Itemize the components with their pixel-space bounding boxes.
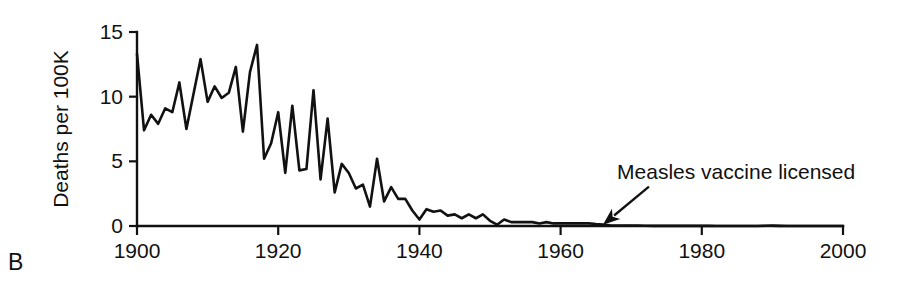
x-tick-labels: 190019201940196019802000 bbox=[114, 239, 867, 262]
x-tick-label: 1900 bbox=[114, 239, 161, 262]
x-axis: 190019201940196019802000 bbox=[114, 226, 867, 262]
y-tick-labels: 051015 bbox=[100, 20, 123, 237]
figure-panel-b: 051015 190019201940196019802000 Deaths p… bbox=[0, 0, 899, 294]
x-tick-label: 1920 bbox=[255, 239, 302, 262]
y-tick-label: 5 bbox=[111, 149, 123, 172]
annotation-arrow-shaft bbox=[614, 187, 649, 216]
annotation-measles-vaccine-licensed: Measles vaccine licensed bbox=[603, 160, 855, 224]
y-tick-label: 0 bbox=[111, 214, 123, 237]
panel-label: B bbox=[8, 249, 23, 275]
annotation-label: Measles vaccine licensed bbox=[617, 160, 855, 183]
data-series-line bbox=[137, 45, 843, 226]
y-tick-label: 15 bbox=[100, 20, 123, 43]
x-tick-label: 2000 bbox=[820, 239, 867, 262]
x-tick-label: 1960 bbox=[537, 239, 584, 262]
y-tick-label: 10 bbox=[100, 85, 123, 108]
y-axis-title: Deaths per 100K bbox=[49, 50, 72, 208]
y-axis: 051015 bbox=[100, 20, 137, 237]
x-tick-label: 1940 bbox=[396, 239, 443, 262]
measles-mortality-chart: 051015 190019201940196019802000 Deaths p… bbox=[0, 0, 899, 294]
x-tick-marks bbox=[137, 226, 843, 235]
x-tick-label: 1980 bbox=[678, 239, 725, 262]
